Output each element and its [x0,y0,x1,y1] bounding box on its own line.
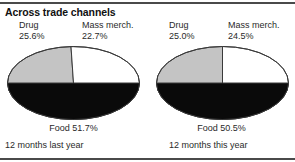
pie-slice-food-this-year [157,83,289,120]
label-drug-this-year: Drug 25.0% [169,20,195,41]
label-drug-value: 25.6% [19,31,45,42]
pie-slice-drug-this-year [157,47,223,84]
pie-slice-mass-merch-last-year [71,47,140,83]
label-drug-value: 25.0% [169,31,195,42]
pie-slice-mass-merch-this-year [223,47,289,84]
pie-slice-food-last-year [8,83,140,120]
caption-this-year: 12 months this year [169,140,248,151]
pie-slice-drug-last-year [8,47,74,83]
label-food-last-year: Food 51.7% [0,123,147,134]
label-drug-name: Drug [169,20,195,31]
label-mass-merch-name: Mass merch. [82,20,134,31]
bottom-divider-rule [0,158,295,160]
label-mass-merch-value: 24.5% [228,31,280,42]
label-drug-last-year: Drug 25.6% [19,20,45,41]
label-mass-merch-this-year: Mass merch. 24.5% [228,20,280,41]
label-mass-merch-last-year: Mass merch. 22.7% [82,20,134,41]
chart-panel-this-year: Drug 25.0% Mass merch. 24.5% Food 50.5% … [148,19,295,159]
page-title: Across trade channels [5,6,116,18]
chart-top-labels-this-year: Drug 25.0% Mass merch. 24.5% [148,19,295,43]
chart-panel-last-year: Drug 25.6% Mass merch. 22.7% Food 51.7% … [0,19,147,159]
caption-last-year: 12 months last year [5,140,84,151]
pie-chart-last-year [5,44,142,122]
label-drug-name: Drug [19,20,45,31]
chart-top-labels-last-year: Drug 25.6% Mass merch. 22.7% [0,19,147,43]
infographic-across-trade-channels: Across trade channels Drug 25.6% Mass me… [0,0,295,162]
label-mass-merch-name: Mass merch. [228,20,280,31]
pie-chart-this-year [154,44,291,122]
label-mass-merch-value: 22.7% [82,31,134,42]
top-divider-rule [0,2,295,4]
label-food-this-year: Food 50.5% [148,123,295,134]
